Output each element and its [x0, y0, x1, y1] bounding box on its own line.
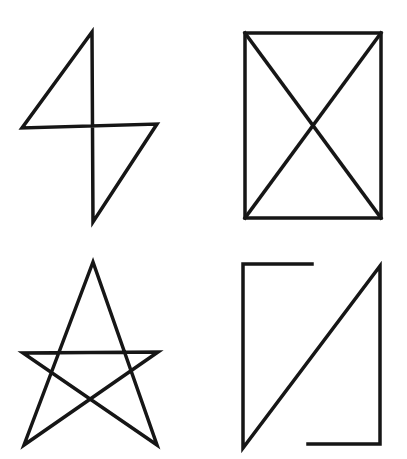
figure-pentagram-star [23, 262, 158, 445]
figure-sheet [0, 0, 407, 459]
figure-lightning-bolt [22, 32, 157, 222]
figure-open-rectangle-with-diagonal [243, 264, 380, 448]
figure-rectangle-with-x [245, 33, 381, 218]
figure-lightning-bolt-stroke [22, 32, 157, 222]
figure-pentagram-star-stroke [23, 262, 158, 445]
figure-open-rectangle-with-diagonal-stroke [243, 264, 380, 448]
figure-canvas [0, 0, 407, 459]
